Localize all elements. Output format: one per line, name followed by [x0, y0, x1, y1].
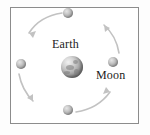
moon-sphere-right: [108, 57, 118, 67]
moon-sphere-left: [16, 59, 26, 69]
arrow-top-left-arc: [29, 13, 62, 33]
earth-moon-orbit-figure: Earth Moon: [0, 0, 150, 135]
moon-label: Moon: [96, 68, 125, 83]
moon-sphere-bottom: [63, 105, 73, 115]
earth-surface-detail: [61, 56, 83, 78]
arrow-bottom-right-arc: [76, 92, 110, 112]
moon-sphere-top: [63, 8, 73, 18]
earth-label: Earth: [52, 37, 79, 52]
